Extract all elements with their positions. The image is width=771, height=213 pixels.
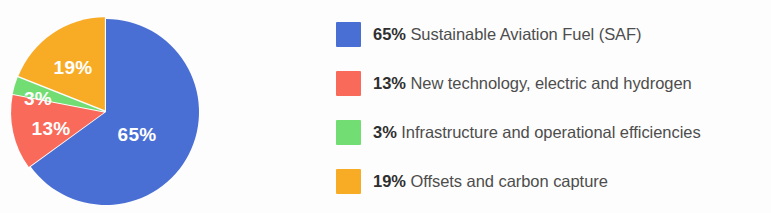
legend-percent-offsets: 19% (373, 172, 406, 190)
legend-description-saf: Sustainable Aviation Fuel (SAF) (406, 25, 642, 43)
legend-label-offsets: 19% Offsets and carbon capture (373, 172, 608, 191)
legend-item-infrastructure[interactable]: 3% Infrastructure and operational effici… (336, 108, 766, 157)
legend-percent-saf: 65% (373, 25, 406, 43)
pie-label-new-technology: 13% (32, 118, 71, 139)
legend-swatch-new-technology (336, 71, 361, 96)
legend-description-new-technology: New technology, electric and hydrogen (406, 74, 692, 92)
legend-item-saf[interactable]: 65% Sustainable Aviation Fuel (SAF) (336, 10, 766, 59)
legend-percent-infrastructure: 3% (373, 123, 397, 141)
legend-swatch-infrastructure (336, 120, 361, 145)
pie-chart: 65% 13% 3% 19% (0, 0, 230, 213)
legend-description-offsets: Offsets and carbon capture (406, 172, 608, 190)
legend-description-infrastructure: Infrastructure and operational efficienc… (397, 123, 701, 141)
pie-label-offsets: 19% (54, 57, 93, 78)
legend-percent-new-technology: 13% (373, 74, 406, 92)
legend-label-infrastructure: 3% Infrastructure and operational effici… (373, 123, 701, 142)
legend-label-new-technology: 13% New technology, electric and hydroge… (373, 74, 692, 93)
pie-label-saf: 65% (118, 124, 157, 145)
pie-label-infrastructure: 3% (24, 88, 52, 109)
legend: 65% Sustainable Aviation Fuel (SAF) 13% … (336, 0, 766, 213)
legend-item-new-technology[interactable]: 13% New technology, electric and hydroge… (336, 59, 766, 108)
pie-chart-svg: 65% 13% 3% 19% (0, 0, 230, 213)
legend-swatch-offsets (336, 169, 361, 194)
legend-item-offsets[interactable]: 19% Offsets and carbon capture (336, 157, 766, 206)
legend-label-saf: 65% Sustainable Aviation Fuel (SAF) (373, 25, 642, 44)
pie-chart-figure: 65% 13% 3% 19% 65% Sustainable Aviation … (0, 0, 771, 213)
legend-swatch-saf (336, 22, 361, 47)
